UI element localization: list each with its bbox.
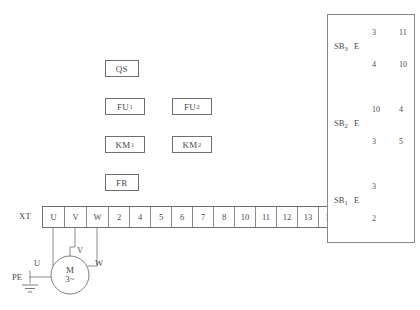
terminal-cell-5: 5 — [151, 207, 172, 227]
sb2-terminal-left-bottom: 3 — [372, 137, 376, 146]
motor-lead-v — [70, 228, 75, 256]
terminal-strip: UVW2456781011121314 — [42, 206, 341, 228]
component-km1-label: KM — [115, 140, 130, 150]
sb2-terminal-left-top: 10 — [372, 105, 380, 114]
terminal-cell-u: U — [43, 207, 65, 227]
motor-lead-label-v: V — [77, 245, 83, 255]
component-km2: KM2 — [172, 136, 212, 153]
terminal-cell-7: 7 — [193, 207, 214, 227]
wiring-diagram: QS FU1 FU2 KM1 KM2 FR XT UVW245678101112… — [0, 0, 420, 310]
terminal-cell-12: 12 — [277, 207, 298, 227]
terminal-cell-v: V — [65, 207, 87, 227]
sb1-terminal-left-top: 3 — [372, 182, 376, 191]
component-km2-subscript: 2 — [198, 141, 202, 148]
component-fu2-subscript: 2 — [197, 103, 201, 110]
component-fu1-label: FU — [117, 102, 129, 112]
component-km2-label: KM — [182, 140, 197, 150]
terminal-cell-6: 6 — [172, 207, 193, 227]
terminal-cell-4: 4 — [130, 207, 151, 227]
component-fr: FR — [105, 174, 139, 191]
terminal-cell-13: 13 — [298, 207, 319, 227]
component-fr-label: FR — [116, 178, 128, 188]
terminal-cell-2: 2 — [109, 207, 130, 227]
earth-label: PE — [12, 272, 22, 282]
sb3-terminal-left-bottom: 4 — [372, 60, 376, 69]
sb3-terminal-right-bottom: 10 — [399, 60, 407, 69]
sb3-terminal-left-top: 3 — [372, 28, 376, 37]
earth-symbol — [22, 285, 38, 292]
sb2-terminal-right-bottom: 5 — [399, 137, 403, 146]
sb3-name: SB3 — [334, 41, 348, 52]
component-fu2: FU2 — [172, 98, 212, 115]
sb2-name-text: SB — [334, 118, 344, 128]
sb3-name-subscript: 3 — [344, 45, 347, 52]
terminal-cell-8: 8 — [214, 207, 235, 227]
terminal-cell-11: 11 — [256, 207, 277, 227]
component-fu2-label: FU — [184, 102, 196, 112]
sb1-name-text: SB — [334, 195, 344, 205]
sb3-name-text: SB — [334, 41, 344, 51]
sb3-terminal-right-top: 11 — [399, 28, 407, 37]
sb1-actuator: E — [354, 195, 359, 205]
component-qs-label: QS — [116, 64, 128, 74]
sb1-terminal-left-bottom: 2 — [372, 214, 376, 223]
sb2-name-subscript: 2 — [344, 122, 347, 129]
motor-lead-label-u: U — [34, 258, 40, 268]
terminal-strip-name: XT — [19, 211, 31, 221]
component-fu1-subscript: 1 — [130, 103, 134, 110]
sb2-actuator: E — [354, 118, 359, 128]
component-km1-subscript: 1 — [131, 141, 135, 148]
sb1-name: SB1 — [334, 195, 348, 206]
sb2-name: SB2 — [334, 118, 348, 129]
sb1-name-subscript: 1 — [344, 199, 347, 206]
motor-phase: 3~ — [50, 275, 90, 284]
terminal-cell-w: W — [87, 207, 109, 227]
component-km1: KM1 — [105, 136, 145, 153]
motor-designator-group: M 3~ — [50, 266, 90, 285]
component-fu1: FU1 — [105, 98, 145, 115]
terminal-cell-10: 10 — [235, 207, 256, 227]
component-qs: QS — [105, 60, 139, 77]
motor-lead-label-w: W — [95, 258, 103, 268]
sb3-actuator: E — [354, 41, 359, 51]
sb2-terminal-right-top: 4 — [399, 105, 403, 114]
